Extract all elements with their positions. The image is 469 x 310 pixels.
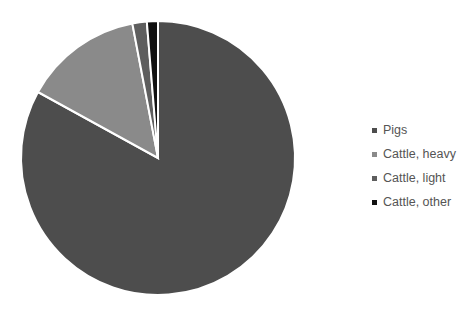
legend-label: Cattle, heavy: [383, 147, 456, 161]
legend-swatch-icon: [372, 128, 377, 133]
legend-item-pigs: Pigs: [372, 118, 456, 142]
legend-swatch-icon: [372, 200, 377, 205]
legend-label: Cattle, other: [383, 195, 451, 209]
legend-item-cattle-other: Cattle, other: [372, 190, 456, 214]
legend-label: Pigs: [383, 123, 407, 137]
legend-item-cattle-light: Cattle, light: [372, 166, 456, 190]
legend: Pigs Cattle, heavy Cattle, light Cattle,…: [372, 118, 456, 214]
legend-item-cattle-heavy: Cattle, heavy: [372, 142, 456, 166]
legend-swatch-icon: [372, 176, 377, 181]
legend-swatch-icon: [372, 152, 377, 157]
legend-label: Cattle, light: [383, 171, 446, 185]
